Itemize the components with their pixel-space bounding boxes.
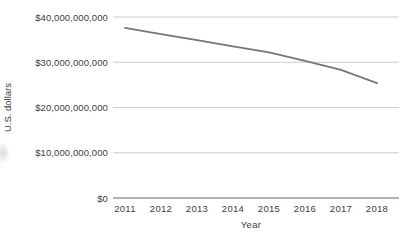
x-tick-label: 2015: [251, 203, 287, 214]
y-tick-label: $40,000,000,000: [0, 12, 108, 23]
line-chart-figure: $0$10,000,000,000$20,000,000,000$30,000,…: [0, 0, 407, 237]
x-tick-label: 2017: [323, 203, 359, 214]
y-tick-label: $20,000,000,000: [0, 102, 108, 113]
y-tick-label: $0: [0, 193, 108, 204]
x-tick-label: 2011: [107, 203, 143, 214]
x-tick-label: 2012: [143, 203, 179, 214]
x-tick-label: 2016: [287, 203, 323, 214]
x-axis-title: Year: [113, 219, 389, 230]
data-line: [125, 28, 377, 83]
y-axis-title: U.S. dollars: [2, 60, 13, 156]
x-tick-label: 2018: [359, 203, 395, 214]
y-tick-label: $30,000,000,000: [0, 57, 108, 68]
x-tick-label: 2014: [215, 203, 251, 214]
x-tick-label: 2013: [179, 203, 215, 214]
y-tick-label: $10,000,000,000: [0, 147, 108, 158]
